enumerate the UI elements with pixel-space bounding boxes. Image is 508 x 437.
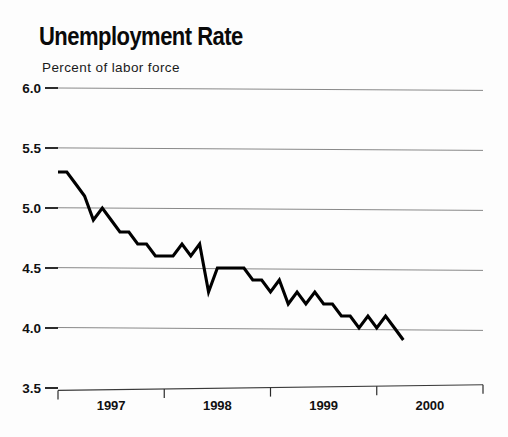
y-tick-label-4.0: 4.0	[22, 321, 41, 336]
data-series-line	[58, 172, 403, 340]
gridline-5.5	[58, 148, 483, 151]
y-tick-label-5.5: 5.5	[22, 141, 41, 156]
y-axis-tick-stubs	[45, 88, 58, 388]
unemployment-rate-chart: Unemployment Rate Percent of labor force…	[0, 0, 508, 437]
y-tick-label-3.5: 3.5	[22, 381, 41, 396]
gridline-5.0	[58, 208, 483, 211]
series-line-0	[58, 172, 403, 340]
x-tick-label-1998: 1998	[203, 398, 232, 413]
x-tick-label-1999: 1999	[309, 398, 338, 413]
x-axis-tick-labels: 1997199819992000	[97, 398, 445, 413]
chart-plot-area: 6.05.55.04.54.03.5 1997199819992000	[0, 0, 508, 437]
y-tick-label-4.5: 4.5	[22, 261, 41, 276]
gridline-4.5	[58, 268, 483, 271]
y-tick-label-5.0: 5.0	[22, 201, 41, 216]
y-axis-tick-labels: 6.05.55.04.54.03.5	[22, 81, 41, 396]
x-tick-label-1997: 1997	[97, 398, 126, 413]
gridline-6.0	[58, 88, 483, 90]
gridline-4.0	[58, 328, 483, 331]
x-tick-label-2000: 2000	[415, 398, 444, 413]
y-tick-label-6.0: 6.0	[22, 81, 41, 96]
